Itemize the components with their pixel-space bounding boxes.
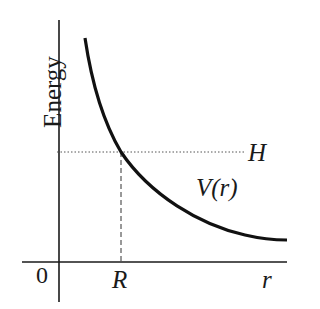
r-marker-label: R — [112, 266, 127, 294]
x-axis-label: r — [262, 266, 272, 294]
origin-label: 0 — [36, 262, 48, 289]
y-axis-label: Energy — [39, 37, 67, 147]
curve-label: V(r) — [196, 174, 238, 202]
h-label: H — [248, 139, 266, 167]
